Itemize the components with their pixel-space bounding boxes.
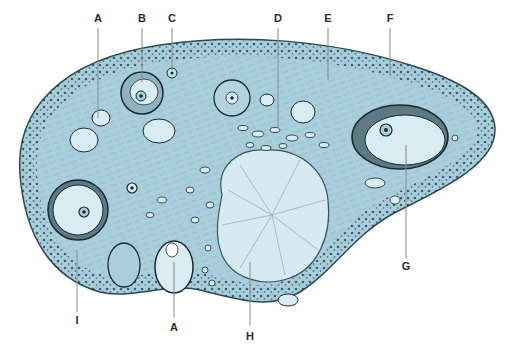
ovary-illustration [0, 0, 505, 357]
label-C: C [168, 12, 176, 24]
label-E: E [324, 12, 331, 24]
ovary-diagram: A B C D E F G I A H [0, 0, 505, 357]
label-B: B [138, 12, 146, 24]
label-F: F [387, 12, 394, 24]
label-G: G [402, 260, 411, 272]
label-D: D [274, 12, 282, 24]
label-A-bottom: A [170, 321, 178, 333]
label-H: H [246, 330, 254, 342]
label-A-top: A [94, 12, 102, 24]
label-I: I [75, 314, 78, 326]
